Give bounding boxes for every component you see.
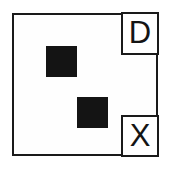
diagram-canvas: D X: [0, 0, 171, 173]
corner-cell-top-right-label: D: [129, 17, 151, 48]
corner-cell-bottom-right-label: X: [130, 120, 151, 151]
filled-square-upper-left: [46, 46, 77, 77]
corner-cell-bottom-right[interactable]: X: [121, 115, 159, 157]
corner-cell-top-right[interactable]: D: [121, 12, 159, 55]
filled-square-lower-right: [77, 97, 108, 128]
